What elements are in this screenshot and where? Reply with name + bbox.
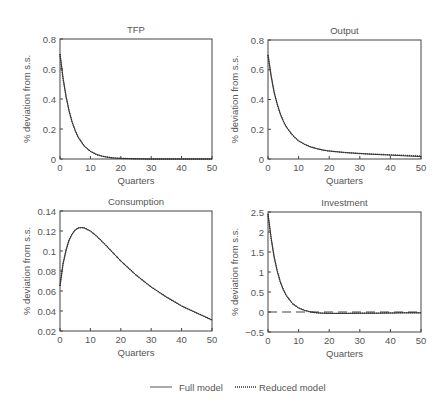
x-tick-label: 20 [324,162,335,173]
x-tick-label: 10 [293,335,304,346]
y-tick-label: 0.04 [38,306,57,317]
y-tick-label: 0.6 [251,64,264,75]
figure-impulse-responses: TFP0102030405000.20.40.60.8Quarters% dev… [0,0,443,411]
y-tick-label: 0.02 [38,326,57,337]
series-full-model [60,54,212,159]
chart-title-investment: Investment [321,197,368,208]
chart-title-tfp: TFP [127,24,145,35]
x-tick-label: 10 [85,334,96,345]
y-tick-label: 0.4 [43,94,56,105]
series-reduced-model [268,214,421,313]
x-tick-label: 50 [416,162,427,173]
x-tick-label: 0 [265,162,270,173]
y-tick-label: −0.5 [245,327,264,338]
x-axis-label: Quarters [118,175,155,186]
chart-title-consumption: Consumption [108,196,164,207]
y-tick-label: 2.5 [251,207,264,218]
series-full-model [268,55,421,157]
plot-area-consumption [60,211,212,331]
y-tick-label: 0.12 [38,226,57,237]
x-tick-label: 40 [385,335,396,346]
y-tick-label: 0 [259,154,264,165]
x-tick-label: 20 [116,162,127,173]
x-tick-label: 30 [146,334,157,345]
chart-panel-investment: Investment01020304050−0.500.511.522.5Qua… [229,197,426,359]
x-tick-label: 30 [146,162,157,173]
y-tick-label: 0.1 [43,246,56,257]
x-tick-label: 0 [57,162,62,173]
x-tick-label: 10 [293,162,304,173]
y-tick-label: 0.2 [251,124,264,135]
plot-area-output [268,40,421,159]
y-tick-label: 0.6 [43,64,56,75]
legend-label-reduced-model: Reduced model [259,382,326,393]
series-full-model [60,228,212,321]
y-tick-label: 0.8 [251,35,264,46]
y-tick-label: 2 [259,227,264,238]
y-axis-label: % deviation from s.s. [21,55,32,143]
x-tick-label: 30 [355,162,366,173]
x-tick-label: 50 [207,334,218,345]
y-axis-label: % deviation from s.s. [21,227,32,315]
y-tick-label: 1.5 [251,247,264,258]
y-tick-label: 0.14 [38,206,57,217]
x-tick-label: 50 [416,335,427,346]
x-tick-label: 10 [85,162,96,173]
y-tick-label: 1 [259,267,264,278]
y-tick-label: 0 [51,154,56,165]
x-tick-label: 20 [116,334,127,345]
x-tick-label: 20 [324,335,335,346]
y-axis-label: % deviation from s.s. [229,55,240,143]
x-tick-label: 40 [385,162,396,173]
y-tick-label: 0.08 [38,266,57,277]
chart-title-output: Output [330,25,359,36]
x-tick-label: 0 [57,334,62,345]
series-reduced-model [60,228,212,321]
y-axis-label: % deviation from s.s. [229,228,240,316]
x-tick-label: 0 [265,335,270,346]
x-axis-label: Quarters [326,175,363,186]
x-tick-label: 50 [207,162,218,173]
series-reduced-model [268,55,421,156]
y-tick-label: 0 [259,307,264,318]
plot-area-tfp [60,39,212,159]
y-tick-label: 0.4 [251,94,264,105]
chart-panel-output: Output0102030405000.20.40.60.8Quarters% … [229,25,426,186]
x-axis-label: Quarters [118,347,155,358]
legend: Full model Reduced model [150,382,326,393]
series-full-model [268,214,421,313]
y-tick-label: 0.2 [43,124,56,135]
x-axis-label: Quarters [326,348,363,359]
y-tick-label: 0.5 [251,287,264,298]
x-tick-label: 40 [176,162,187,173]
x-tick-label: 40 [176,334,187,345]
y-tick-label: 0.06 [38,286,57,297]
y-tick-label: 0.8 [43,34,56,45]
legend-label-full-model: Full model [179,382,223,393]
x-tick-label: 30 [355,335,366,346]
chart-panel-consumption: Consumption010203040500.020.040.060.080.… [21,196,217,358]
chart-panel-tfp: TFP0102030405000.20.40.60.8Quarters% dev… [21,24,217,186]
